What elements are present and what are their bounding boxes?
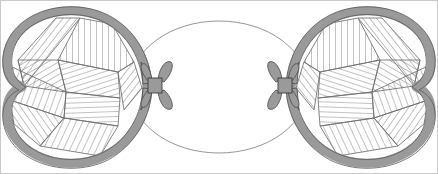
right-bow-center-knot (278, 78, 292, 93)
illustration-svg: Two hatched heart-shaped lobes tied with… (0, 0, 438, 174)
left-bow-center-knot (148, 78, 162, 93)
left-lobe (3, 7, 152, 169)
illustration-canvas: Two hatched heart-shaped lobes tied with… (0, 0, 438, 174)
right-lobe (286, 7, 435, 169)
